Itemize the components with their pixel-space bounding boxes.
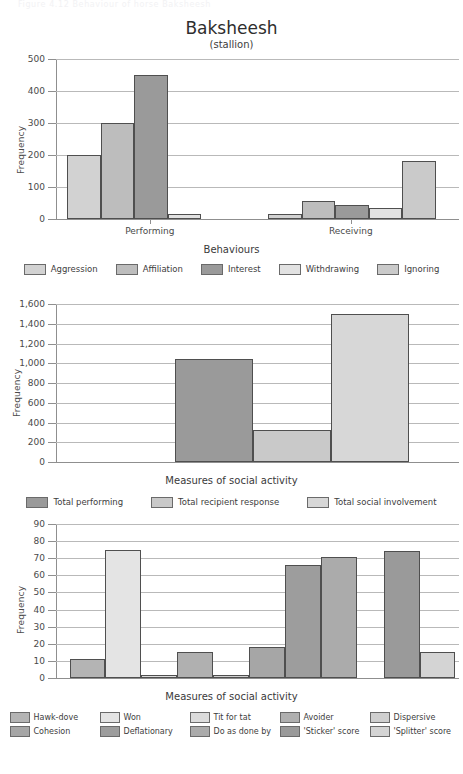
legend-item: Do as done by	[190, 726, 274, 737]
y-axis-tick-label: 40	[34, 605, 45, 614]
bar	[134, 75, 168, 219]
y-axis-tick-label: 800	[28, 379, 45, 388]
bar	[384, 551, 420, 678]
chart1-x-axis-title: Behaviours	[0, 243, 463, 256]
figure-measures-social-activity-strategies: Frequency 0102030405060708090 Measures o…	[0, 518, 463, 774]
chart3-x-axis-title: Measures of social activity	[0, 690, 463, 703]
x-axis-category-label: Receiving	[329, 226, 373, 236]
y-axis-tick	[48, 423, 56, 424]
legend-swatch	[24, 264, 46, 275]
chart3-bars	[57, 524, 459, 678]
legend-label: Withdrawing	[306, 264, 360, 275]
legend-item: Aggression	[24, 264, 98, 275]
legend-swatch	[280, 712, 300, 723]
bar	[253, 430, 331, 462]
legend-swatch	[100, 712, 120, 723]
chart2-x-axis-title: Measures of social activity	[0, 474, 463, 487]
y-axis-tick-label: 90	[34, 520, 45, 529]
bar	[67, 155, 101, 219]
y-axis-tick	[48, 344, 56, 345]
y-axis-tick-label: 10	[34, 656, 45, 665]
legend-swatch	[190, 712, 210, 723]
y-axis-tick	[48, 644, 56, 645]
figure-baksheesh-behaviours: Baksheesh (stallion) Frequency 010020030…	[0, 18, 463, 298]
legend-item: Total recipient response	[151, 497, 279, 508]
chart3-plot-area: Frequency 0102030405060708090	[56, 524, 459, 678]
legend-swatch	[279, 264, 301, 275]
y-axis-tick	[48, 524, 56, 525]
y-axis-tick	[48, 442, 56, 443]
y-axis-tick	[48, 91, 56, 92]
chart1-y-axis-title: Frequency	[16, 126, 26, 174]
y-axis-tick	[48, 187, 56, 188]
chart3-y-axis-title: Frequency	[16, 586, 26, 634]
y-axis-tick	[48, 304, 56, 305]
legend-swatch	[100, 726, 120, 737]
y-axis-tick-label: 70	[34, 554, 45, 563]
bar	[285, 565, 321, 678]
bar	[420, 652, 456, 678]
legend-swatch	[151, 497, 173, 508]
x-axis-tick	[150, 219, 151, 224]
legend-swatch	[190, 726, 210, 737]
bar	[302, 201, 336, 219]
chart1-legend: AggressionAffiliationInterestWithdrawing…	[0, 264, 463, 275]
y-axis-tick-label: 300	[28, 119, 45, 128]
bar	[268, 214, 302, 219]
legend-swatch	[201, 264, 223, 275]
chart2-plot-area: Frequency 02004006008001,0001,2001,4001,…	[56, 304, 459, 462]
y-axis-tick-label: 100	[28, 183, 45, 192]
y-axis-tick	[48, 575, 56, 576]
legend-label: Total performing	[53, 497, 123, 508]
legend-swatch	[280, 726, 300, 737]
bar	[331, 314, 409, 462]
legend-item: Tit for tat	[190, 712, 274, 723]
y-axis-tick-label: 1,200	[19, 339, 45, 348]
legend-label: Dispersive	[394, 712, 436, 723]
legend-swatch	[370, 712, 390, 723]
gridline	[56, 219, 459, 220]
y-axis-tick-label: 1,400	[19, 319, 45, 328]
y-axis-tick-label: 400	[28, 87, 45, 96]
gridline	[56, 678, 459, 679]
legend-item: Avoider	[280, 712, 364, 723]
legend-swatch	[377, 264, 399, 275]
chart3-legend-row-1: Hawk-doveWonTit for tatAvoiderDispersive	[0, 712, 463, 723]
y-axis-tick-label: 60	[34, 571, 45, 580]
y-axis-tick	[48, 123, 56, 124]
bar	[402, 161, 436, 219]
chart3-legend: Hawk-doveWonTit for tatAvoiderDispersive…	[0, 712, 463, 740]
chart3-legend-row-2: CohesionDeflationaryDo as done by'Sticke…	[0, 726, 463, 737]
y-axis-tick-label: 50	[34, 588, 45, 597]
y-axis-tick	[48, 627, 56, 628]
y-axis-tick-label: 0	[39, 458, 45, 467]
y-axis-tick	[48, 155, 56, 156]
bar	[105, 550, 141, 678]
y-axis-tick-label: 200	[28, 438, 45, 447]
legend-item: Hawk-dove	[10, 712, 94, 723]
chart2-y-axis-title: Frequency	[12, 369, 22, 417]
y-axis-tick	[48, 324, 56, 325]
legend-label: Cohesion	[34, 726, 71, 737]
legend-label: Total recipient response	[178, 497, 279, 508]
y-axis-tick-label: 200	[28, 151, 45, 160]
legend-item: Total performing	[26, 497, 123, 508]
legend-item: Won	[100, 712, 184, 723]
bar	[321, 557, 357, 678]
legend-label: Won	[124, 712, 141, 723]
y-axis-tick-label: 20	[34, 639, 45, 648]
legend-label: Tit for tat	[214, 712, 251, 723]
legend-item: Deflationary	[100, 726, 184, 737]
legend-label: 'Sticker' score	[304, 726, 360, 737]
legend-item: Withdrawing	[279, 264, 360, 275]
legend-swatch	[10, 726, 30, 737]
legend-swatch	[370, 726, 390, 737]
legend-item: Ignoring	[377, 264, 439, 275]
legend-label: Aggression	[51, 264, 98, 275]
y-axis-tick	[48, 59, 56, 60]
y-axis-tick	[48, 403, 56, 404]
bar	[175, 359, 253, 462]
legend-item: Dispersive	[370, 712, 454, 723]
legend-label: Interest	[228, 264, 261, 275]
bar	[101, 123, 135, 219]
